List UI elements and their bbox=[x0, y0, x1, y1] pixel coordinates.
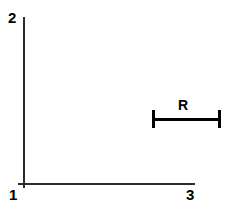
origin-label: 1 bbox=[9, 187, 17, 202]
vertical-axis-label: 2 bbox=[8, 10, 16, 25]
dimension-label: R bbox=[178, 98, 188, 112]
technical-drawing-figure: 2 1 3 R bbox=[0, 0, 227, 212]
dimension-tick-right-icon bbox=[218, 110, 221, 128]
vertical-axis-line bbox=[23, 17, 25, 188]
horizontal-axis-line bbox=[18, 183, 195, 185]
horizontal-axis-label: 3 bbox=[186, 187, 194, 202]
dimension-bar-line bbox=[153, 118, 220, 121]
